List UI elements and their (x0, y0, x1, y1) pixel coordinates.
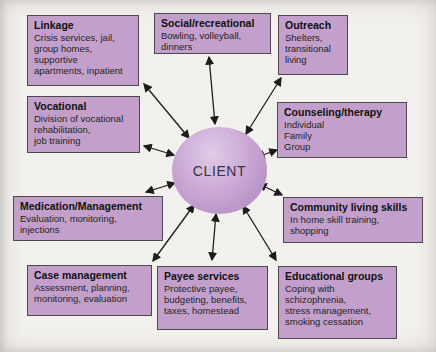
node-linkage-body: Crisis services, jail, group homes, supp… (34, 32, 133, 76)
node-counseling-therapy-body: Individual Family Group (284, 119, 401, 152)
node-vocational-body: Division of vocational rehabilitation, j… (34, 113, 134, 146)
arrow-payee-services (212, 214, 216, 260)
node-case-management-body: Assessment, planning, monitoring, evalua… (34, 282, 146, 304)
arrow-educational-groups (243, 206, 276, 260)
node-social-recreational: Social/recreational Bowling, volleyball,… (154, 13, 271, 54)
node-payee-services: Payee services Protective payee, budgeti… (157, 266, 268, 330)
client-circle: CLIENT (172, 127, 267, 214)
node-case-management-title: Case management (34, 269, 146, 282)
node-medication-management-body: Evaluation, monitoring, injections (20, 213, 157, 235)
arrow-social-recreational (209, 57, 215, 124)
node-payee-services-title: Payee services (164, 270, 262, 283)
arrow-medication-management (146, 183, 175, 192)
node-medication-management-title: Medication/Management (20, 200, 157, 213)
node-social-recreational-body: Bowling, volleyball, dinners (161, 30, 265, 52)
node-outreach: Outreach Shelters, transitional living (278, 15, 348, 75)
node-educational-groups-title: Educational groups (285, 270, 391, 283)
node-educational-groups-body: Coping with schizophrenia, stress manage… (285, 283, 391, 327)
node-outreach-body: Shelters, transitional living (285, 32, 342, 65)
arrow-outreach (246, 78, 281, 134)
arrow-vocational (144, 146, 174, 155)
node-linkage: Linkage Crisis services, jail, group hom… (27, 15, 139, 86)
node-counseling-therapy-title: Counseling/therapy (284, 106, 401, 119)
node-vocational-title: Vocational (34, 100, 134, 113)
node-social-recreational-title: Social/recreational (161, 17, 265, 30)
client-label: CLIENT (193, 163, 246, 179)
node-outreach-title: Outreach (285, 19, 342, 32)
node-vocational: Vocational Division of vocational rehabi… (27, 96, 140, 153)
diagram-canvas: Linkage Crisis services, jail, group hom… (0, 0, 436, 352)
node-payee-services-body: Protective payee, budgeting, benefits, t… (164, 283, 262, 316)
node-linkage-title: Linkage (34, 19, 133, 32)
node-educational-groups: Educational groups Coping with schizophr… (278, 266, 397, 339)
node-counseling-therapy: Counseling/therapy Individual Family Gro… (277, 102, 407, 158)
node-community-living-skills: Community living skills In home skill tr… (283, 197, 423, 243)
node-case-management: Case management Assessment, planning, mo… (27, 265, 152, 316)
node-community-living-skills-body: In home skill training, shopping (290, 214, 417, 236)
node-medication-management: Medication/Management Evaluation, monito… (13, 196, 163, 241)
node-community-living-skills-title: Community living skills (290, 201, 417, 214)
arrow-linkage (144, 84, 189, 138)
